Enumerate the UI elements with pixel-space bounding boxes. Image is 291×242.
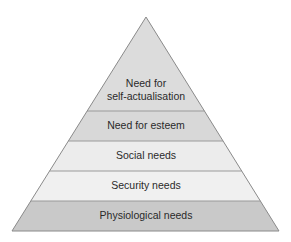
label-security: Security needs: [111, 179, 180, 191]
label-social: Social needs: [116, 149, 176, 161]
label-physiological: Physiological needs: [100, 209, 193, 221]
label-self-actualisation: Need for: [126, 77, 167, 89]
label-self-actualisation: self-actualisation: [107, 90, 185, 102]
label-esteem: Need for esteem: [107, 119, 185, 131]
pyramid-diagram: Need forself-actualisationNeed for estee…: [0, 0, 291, 242]
